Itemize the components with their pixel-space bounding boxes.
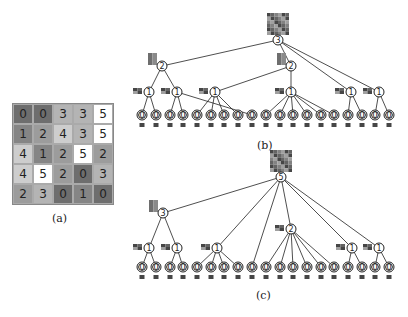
leaf-node: 0	[233, 262, 243, 272]
svg-text:0: 0	[167, 263, 172, 272]
inner-node: 1	[347, 243, 357, 253]
svg-text:0: 0	[345, 263, 350, 272]
tree-edge	[291, 229, 334, 267]
component-thumbnail	[363, 88, 372, 94]
svg-text:0: 0	[345, 111, 350, 120]
inner-node: 2	[286, 224, 296, 234]
leaf-node: 0	[137, 262, 147, 272]
leaf-node: 0	[261, 262, 271, 272]
leaf-node: 0	[219, 262, 229, 272]
leaf-node: 0	[206, 262, 216, 272]
svg-text:0: 0	[318, 111, 323, 120]
svg-text:2: 2	[288, 62, 293, 71]
svg-text:1: 1	[376, 244, 381, 253]
leaf-node: 0	[316, 262, 326, 272]
leaf-node: 0	[178, 110, 188, 120]
tree-edge	[252, 177, 281, 267]
leaf-thumbnail	[154, 123, 159, 127]
svg-text:1: 1	[174, 244, 179, 253]
root-node: 3	[273, 35, 283, 45]
tree-edge	[291, 92, 334, 115]
inner-node: 1	[374, 243, 384, 253]
svg-text:0: 0	[304, 111, 309, 120]
leaf-thumbnail	[387, 123, 392, 127]
inner-node: 1	[212, 243, 222, 253]
svg-text:3: 3	[275, 36, 280, 45]
svg-text:0: 0	[139, 263, 144, 272]
leaf-node: 0	[165, 110, 175, 120]
svg-text:0: 0	[359, 111, 364, 120]
component-thumbnail	[199, 88, 208, 94]
component-thumbnail	[133, 88, 142, 94]
root-node: 5	[276, 172, 286, 182]
svg-text:0: 0	[249, 111, 254, 120]
svg-text:0: 0	[331, 111, 336, 120]
svg-text:1: 1	[288, 88, 293, 97]
leaf-node: 0	[288, 110, 298, 120]
leaf-thumbnail	[387, 275, 392, 279]
leaf-thumbnail	[181, 275, 186, 279]
tree-edge	[281, 177, 291, 229]
svg-text:5: 5	[278, 173, 283, 182]
tree-edge	[280, 229, 291, 267]
svg-text:0: 0	[263, 263, 268, 272]
svg-text:0: 0	[235, 111, 240, 120]
leaf-node: 0	[302, 262, 312, 272]
component-thumbnail	[363, 244, 372, 250]
svg-text:0: 0	[290, 263, 295, 272]
svg-text:1: 1	[212, 88, 217, 97]
inner-node: 1	[346, 87, 356, 97]
svg-text:0: 0	[277, 111, 282, 120]
leaf-thumbnail	[195, 123, 200, 127]
svg-text:0: 0	[386, 111, 391, 120]
leaf-thumbnail	[264, 123, 269, 127]
leaf-thumbnail	[250, 123, 255, 127]
leaf-node: 0	[370, 110, 380, 120]
component-thumbnail	[275, 88, 284, 94]
inner-node: 1	[144, 87, 154, 97]
svg-text:0: 0	[208, 111, 213, 120]
leaf-node: 0	[275, 110, 285, 120]
leaf-node: 0	[219, 110, 229, 120]
leaf-thumbnail	[305, 123, 310, 127]
leaf-node: 0	[275, 262, 285, 272]
leaf-node: 0	[247, 262, 257, 272]
svg-text:0: 0	[180, 263, 185, 272]
tree-edge	[162, 40, 278, 66]
leaf-thumbnail	[154, 275, 159, 279]
leaf-thumbnail	[305, 275, 310, 279]
leaf-thumbnail	[332, 275, 337, 279]
leaf-thumbnail	[222, 123, 227, 127]
leaf-thumbnail	[373, 275, 378, 279]
component-thumbnail	[148, 53, 157, 65]
svg-text:1: 1	[376, 88, 381, 97]
svg-text:2: 2	[159, 62, 164, 71]
svg-text:0: 0	[290, 111, 295, 120]
leaf-thumbnail	[209, 275, 214, 279]
tree-edge	[291, 229, 321, 267]
svg-text:0: 0	[153, 263, 158, 272]
leaf-thumbnail	[346, 275, 351, 279]
leaf-thumbnail	[291, 123, 296, 127]
leaf-node: 0	[178, 262, 188, 272]
component-thumbnail	[277, 53, 286, 65]
inner-node: 2	[286, 61, 296, 71]
leaf-thumbnail	[222, 275, 227, 279]
leaf-node: 0	[288, 262, 298, 272]
leaf-thumbnail	[346, 123, 351, 127]
svg-text:0: 0	[194, 111, 199, 120]
svg-text:0: 0	[208, 263, 213, 272]
svg-text:0: 0	[386, 263, 391, 272]
tree-edge	[266, 229, 291, 267]
component-thumbnail	[161, 88, 170, 94]
leaf-thumbnail	[278, 123, 283, 127]
leaf-thumbnail	[140, 275, 145, 279]
component-thumbnail	[161, 244, 170, 250]
leaf-node: 0	[357, 110, 367, 120]
svg-text:0: 0	[221, 263, 226, 272]
leaf-node: 0	[357, 262, 367, 272]
svg-text:0: 0	[221, 111, 226, 120]
svg-text:2: 2	[288, 225, 293, 234]
leaf-node: 0	[165, 262, 175, 272]
svg-text:0: 0	[318, 263, 323, 272]
